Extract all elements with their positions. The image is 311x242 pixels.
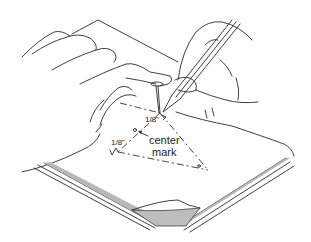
- left-margin-label: 1/8": [111, 138, 125, 147]
- back-paper-sheet: [72, 20, 178, 62]
- top-margin-label: 1/8": [145, 115, 159, 124]
- illustration: 1/8" 1/8" center mark: [0, 0, 311, 242]
- center-mark-label-line1: center: [149, 134, 180, 146]
- pencil: [163, 20, 240, 112]
- right-hand: [175, 22, 294, 156]
- center-mark: [134, 129, 149, 137]
- center-mark-label-line2: mark: [152, 146, 177, 158]
